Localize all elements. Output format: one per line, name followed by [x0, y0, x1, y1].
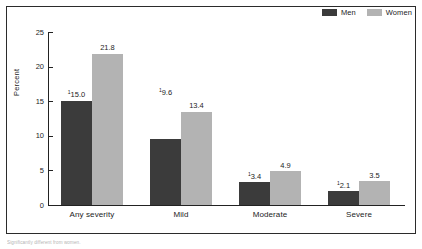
bar-value-text: 13.4 [189, 101, 204, 110]
y-tick-mark-0 [48, 205, 53, 206]
plot-area: 115.0 21.8 19.6 13.4 13.4 4.9 12.1 3.5 [48, 32, 404, 205]
x-axis-label-mild: Mild [141, 211, 221, 219]
chart-footnote: Significantly different from women. [7, 240, 81, 245]
bar-women-mild [181, 112, 212, 205]
bar-value-men-any-severity: 115.0 [56, 91, 97, 99]
y-tick-label-10: 10 [22, 132, 44, 140]
bar-value-women-severe: 3.5 [354, 172, 395, 180]
y-tick-label-25: 25 [22, 29, 44, 37]
x-axis-label-any-severity: Any severity [52, 211, 132, 219]
legend-entry-men: Men [322, 9, 356, 17]
bar-men-mild [150, 139, 181, 205]
chart-legend: Men Women [322, 9, 412, 17]
bar-value-women-mild: 13.4 [176, 102, 217, 110]
bar-value-men-mild: 19.6 [145, 89, 186, 97]
bar-men-severe [328, 191, 359, 206]
bar-value-text: 4.9 [280, 161, 290, 170]
legend-label-women: Women [386, 9, 412, 17]
bar-value-text: 9.6 [162, 88, 172, 97]
bar-value-text: 15.0 [71, 90, 86, 99]
bar-men-any-severity [61, 101, 92, 205]
x-axis-line [48, 205, 405, 206]
bar-value-men-moderate: 13.4 [234, 173, 275, 181]
bar-value-women-moderate: 4.9 [265, 162, 306, 170]
y-axis-title: Percent [12, 69, 21, 96]
bar-men-moderate [239, 182, 270, 206]
y-tick-label-20: 20 [22, 63, 44, 71]
bar-value-men-severe: 12.1 [323, 182, 364, 190]
x-axis-label-severe: Severe [319, 211, 399, 219]
bar-women-any-severity [92, 54, 123, 205]
legend-entry-women: Women [367, 9, 412, 17]
legend-swatch-women [367, 9, 382, 16]
y-tick-label-15: 15 [22, 98, 44, 106]
bar-value-women-any-severity: 21.8 [87, 44, 128, 52]
legend-label-men: Men [341, 9, 356, 17]
bar-value-text: 2.1 [340, 181, 350, 190]
legend-swatch-men [322, 9, 337, 16]
x-axis-label-moderate: Moderate [230, 211, 310, 219]
bar-value-text: 3.4 [251, 172, 261, 181]
y-tick-label-0: 0 [22, 202, 44, 210]
bar-value-text: 3.5 [369, 171, 379, 180]
bar-value-text: 21.8 [100, 43, 115, 52]
figure: Men Women Percent 25 20 15 10 5 0 115.0 … [0, 0, 422, 249]
y-tick-label-5: 5 [22, 167, 44, 175]
